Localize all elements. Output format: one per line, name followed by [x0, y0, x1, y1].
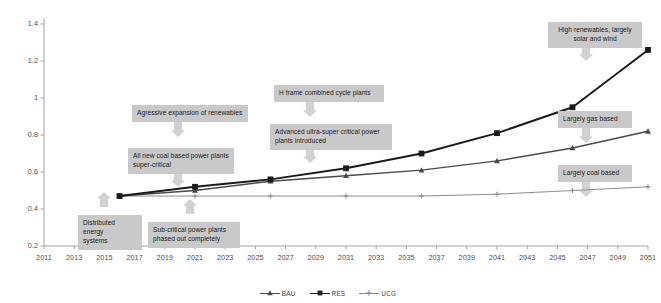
annotation-high-renewables-solar-wind: High renewables, largely solar and wind — [548, 22, 642, 48]
x-axis-tick-label: 2043 — [512, 253, 542, 262]
legend-label: RES — [332, 290, 346, 297]
x-axis-tick-label: 2021 — [180, 253, 210, 262]
annotation-all-new-coal-super-critical: All new coal based power plants super-cr… — [128, 148, 234, 174]
annotation-largely-coal-based: Largely coal based — [558, 165, 632, 182]
x-axis-tick-label: 2013 — [59, 253, 89, 262]
x-axis-tick-label: 2017 — [120, 253, 150, 262]
annotation-largely-gas-based: Largely gas based — [558, 111, 632, 128]
x-axis-tick-label: 2025 — [240, 253, 270, 262]
x-axis-tick-label: 2051 — [633, 253, 661, 262]
annotation-agressive-expansion-renewables: Agressive expansion of renewables — [132, 105, 248, 122]
annotation-distributed-energy-systems: Distributed energy systems — [78, 215, 142, 250]
x-axis-tick-label: 2045 — [542, 253, 572, 262]
legend-label: BAU — [282, 290, 296, 297]
x-axis-tick-label: 2019 — [150, 253, 180, 262]
annotation-advanced-ultra-super-critical: Advanced ultra-super critical power plan… — [270, 124, 392, 150]
x-axis-tick-label: 2033 — [361, 253, 391, 262]
y-axis-tick-label: 0.8 — [8, 130, 38, 139]
x-axis-tick-label: 2037 — [422, 253, 452, 262]
legend-item-bau[interactable]: BAU — [260, 289, 296, 297]
y-axis-tick-label: 0.6 — [8, 167, 38, 176]
legend-label: UCG — [381, 290, 396, 297]
x-axis-tick-label: 2049 — [603, 253, 633, 262]
legend-swatch-square-icon — [310, 289, 330, 297]
x-axis-tick-label: 2011 — [29, 253, 59, 262]
x-axis-tick-label: 2047 — [573, 253, 603, 262]
annotation-h-frame-combined-cycle: H frame combined cycle plants — [274, 85, 384, 102]
y-axis-tick-label: 1.2 — [8, 56, 38, 65]
chart-legend: BAURESUCG — [0, 289, 656, 297]
x-axis-tick-label: 2029 — [301, 253, 331, 262]
y-axis-tick-label: 1 — [8, 93, 38, 102]
legend-item-res[interactable]: RES — [310, 289, 346, 297]
x-axis-tick-label: 2023 — [210, 253, 240, 262]
x-axis-tick-label: 2027 — [271, 253, 301, 262]
annotation-sub-critical-phased-out: Sub-critical power plants phased out com… — [148, 222, 240, 248]
x-axis-tick-label: 2039 — [452, 253, 482, 262]
y-axis-tick-label: 0.4 — [8, 204, 38, 213]
y-axis-tick-label: 0.2 — [8, 241, 38, 250]
x-axis-tick-label: 2015 — [89, 253, 119, 262]
y-axis-tick-label: 1.4 — [8, 19, 38, 28]
x-axis-tick-label: 2041 — [482, 253, 512, 262]
legend-swatch-cross-icon — [359, 289, 379, 297]
legend-item-ucg[interactable]: UCG — [359, 289, 396, 297]
x-axis-tick-label: 2035 — [391, 253, 421, 262]
x-axis-tick-label: 2031 — [331, 253, 361, 262]
legend-swatch-triangle-icon — [260, 289, 280, 297]
